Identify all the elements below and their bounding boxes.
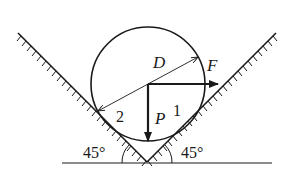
diameter-label: D <box>152 53 166 72</box>
angle-arc-right <box>165 145 172 163</box>
angle-right-label: 45° <box>181 144 203 161</box>
force-f-label: F <box>206 56 218 75</box>
contact-point-2-label: 2 <box>116 108 124 125</box>
force-p-label: P <box>154 109 165 128</box>
angle-left-label: 45° <box>83 144 105 161</box>
angle-arc-left <box>122 145 129 163</box>
v-groove-cylinder-diagram: D F P 1 2 45° 45° <box>0 0 286 176</box>
contact-point-1-label: 1 <box>173 102 181 119</box>
